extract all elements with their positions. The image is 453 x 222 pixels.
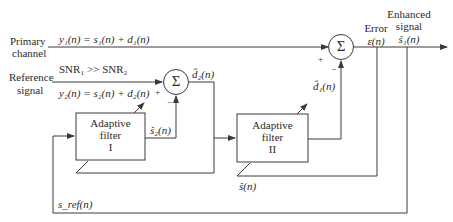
primary-label-line2: channel (12, 47, 46, 59)
enhanced-label-line1: Enhanced (386, 8, 432, 20)
enhanced-signal-symbol: ŝ₁(n) (386, 33, 432, 45)
primary-label-line1: Primary (10, 35, 45, 47)
filter2-adapt-diagonal (237, 163, 250, 176)
sum2-plus-sign: + (155, 88, 160, 97)
filter2-line3: II (237, 143, 308, 155)
d2-hat-label: d̂₂(n) (192, 68, 214, 80)
sum1-minus-sign: − (331, 65, 336, 74)
sref-label: s_ref(n) (58, 198, 92, 210)
filter1-adapt-diagonal (76, 161, 88, 173)
sum1-sigma: Σ (331, 39, 351, 54)
error-feedback-line (237, 47, 377, 176)
filter2-line2: filter (237, 131, 308, 143)
filter1-line3: I (76, 141, 145, 153)
filter2-label: Adaptive filter II (237, 119, 308, 155)
s2-hat-label: ŝ₂(n) (150, 124, 171, 136)
primary-equation: y₁(n) = s₁(n) + d₁(n) (59, 33, 149, 45)
d1-hat-label: d̂₁(n) (313, 80, 335, 92)
d2hat-line (189, 82, 236, 138)
sum2-sigma: Σ (166, 74, 186, 89)
filter1-line2: filter (76, 129, 145, 141)
reference-label-line2: signal (17, 84, 43, 96)
sum2-minus-sign: − (167, 98, 172, 107)
reference-label-line1: Reference (9, 71, 54, 83)
snr-note: SNR₁ >> SNR₂ (59, 63, 127, 75)
reference-equation: y₂(n) = s₂(n) + d₂(n) (59, 87, 149, 99)
filter1-adapt-arrow (134, 103, 144, 113)
filter1-label: Adaptive filter I (76, 117, 145, 153)
enhanced-label-line2: signal (386, 20, 432, 32)
sum1-plus-sign: + (318, 55, 323, 64)
filter2-adapt-arrow (297, 104, 307, 114)
filter2-line1: Adaptive (237, 119, 308, 131)
filter1-line1: Adaptive (76, 117, 145, 129)
s-hat-label: ŝ(n) (239, 180, 256, 192)
